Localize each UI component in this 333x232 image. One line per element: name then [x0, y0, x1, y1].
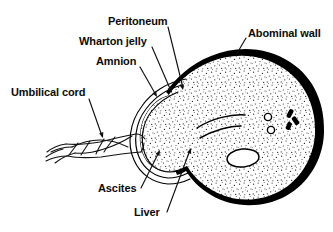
label-wharton-jelly: Wharton jelly — [79, 35, 148, 47]
label-liver: Liver — [134, 206, 161, 218]
label-ascites: Ascites — [98, 182, 136, 194]
label-abominal-wall: Abominal wall — [248, 27, 321, 39]
label-peritoneum: Peritoneum — [108, 15, 168, 27]
medical-illustration-figure: Peritoneum Wharton jelly Amnion Umbilica… — [0, 0, 333, 232]
label-amnion: Amnion — [96, 55, 137, 67]
leader-amnion — [140, 67, 156, 95]
leader-wharton-jelly — [152, 47, 171, 91]
leader-umbilical-cord — [89, 99, 102, 136]
leader-peritoneum — [168, 27, 183, 88]
label-umbilical-cord: Umbilical cord — [11, 86, 85, 98]
anatomy-diagram-svg: Peritoneum Wharton jelly Amnion Umbilica… — [0, 0, 333, 232]
arrowhead-umbilical-cord — [99, 132, 105, 139]
